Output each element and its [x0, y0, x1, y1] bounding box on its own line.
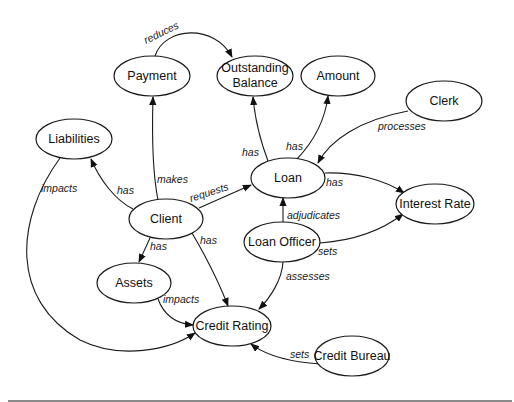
node-credit-bureau: Credit Bureau	[313, 336, 390, 376]
edge-label-loan-officer-sets: sets	[318, 245, 338, 257]
edge-loan-officer-assesses-credit-rating	[259, 262, 283, 309]
edge-label-loan-has-interest-rate: has	[326, 176, 344, 188]
edge-label-client-has-credit-rating: has	[200, 234, 218, 246]
node-clerk: Clerk	[406, 81, 482, 121]
node-label-line-2: Balance	[232, 76, 277, 90]
edge-label-assesses: assesses	[286, 270, 331, 282]
node-assets: Assets	[97, 263, 171, 303]
node-label-line-1: Outstanding	[221, 61, 288, 75]
edge-label-assets-impacts: impacts	[163, 293, 200, 305]
edge-label-requests: requests	[188, 180, 231, 204]
edge-label-reduces: reduces	[142, 18, 182, 45]
node-label: Assets	[115, 276, 153, 290]
edge-label-client-has-assets: has	[150, 240, 168, 252]
node-amount: Amount	[301, 56, 375, 96]
node-label: Interest Rate	[399, 197, 471, 211]
node-label: Loan	[274, 171, 302, 185]
edge-label-loan-has-outstanding-balance: has	[242, 146, 260, 158]
node-loan: Loan	[251, 158, 325, 198]
node-credit-rating: Credit Rating	[193, 306, 271, 346]
edge-label-client-has-liabilities: has	[117, 184, 135, 196]
edge-label-makes: makes	[157, 173, 189, 185]
node-client: Client	[129, 199, 203, 239]
edge-label-processes: processes	[377, 120, 427, 132]
node-label: Credit Bureau	[313, 349, 390, 363]
node-loan-officer: Loan Officer	[244, 222, 320, 262]
node-outstanding-balance: Outstanding Balance	[217, 56, 293, 96]
edge-clerk-processes-loan	[318, 111, 408, 163]
node-label: Clerk	[429, 94, 459, 108]
node-label: Loan Officer	[248, 235, 316, 249]
node-label: Liabilities	[48, 132, 99, 146]
concept-map-diagram: reduces makes has requests has has has h…	[0, 0, 514, 402]
node-label: Client	[150, 212, 182, 226]
edge-label-adjudicates: adjudicates	[287, 209, 341, 221]
node-label: Credit Rating	[196, 319, 269, 333]
edge-label-liabilities-impacts: impacts	[41, 182, 78, 194]
node-payment: Payment	[114, 56, 190, 96]
edge-payment-reduces-outstanding-balance	[155, 33, 232, 57]
edge-label-credit-bureau-sets: sets	[290, 348, 310, 360]
edge-credit-bureau-sets-credit-rating	[251, 344, 320, 364]
node-label: Payment	[127, 69, 177, 83]
edge-client-has-assets	[139, 238, 150, 262]
node-interest-rate: Interest Rate	[396, 184, 474, 224]
edge-label-loan-has-amount: has	[286, 140, 304, 152]
node-label: Amount	[316, 69, 360, 83]
node-liabilities: Liabilities	[36, 119, 112, 159]
